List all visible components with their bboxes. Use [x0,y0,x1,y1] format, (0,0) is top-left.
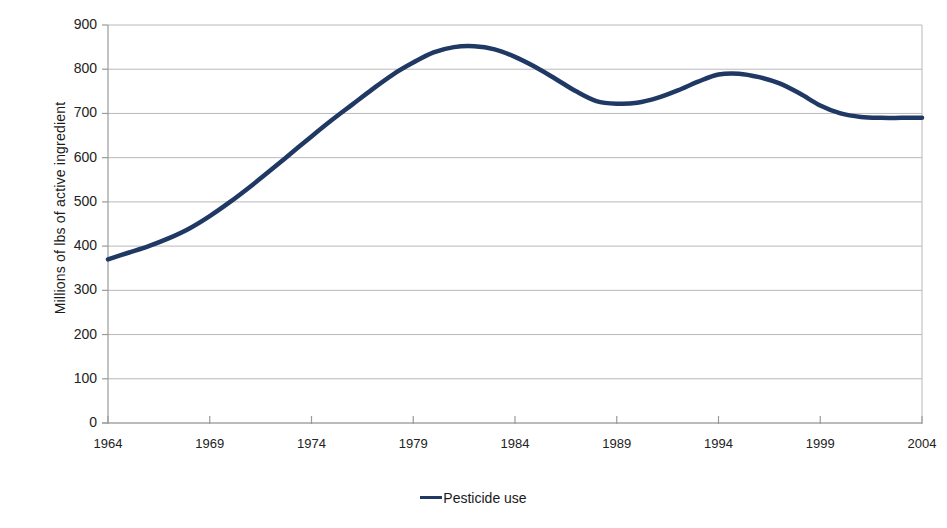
gridlines [108,25,922,423]
series-line-pesticide-use [108,46,922,259]
legend-label-pesticide-use: Pesticide use [443,490,526,506]
axis-lines [102,25,922,423]
chart-legend: Pesticide use [0,489,947,506]
legend-line-swatch [420,496,442,499]
pesticide-use-line-chart: Millions of lbs of active ingredient 010… [0,0,947,528]
y-axis-ticks [102,25,108,423]
plot-area [0,0,947,528]
